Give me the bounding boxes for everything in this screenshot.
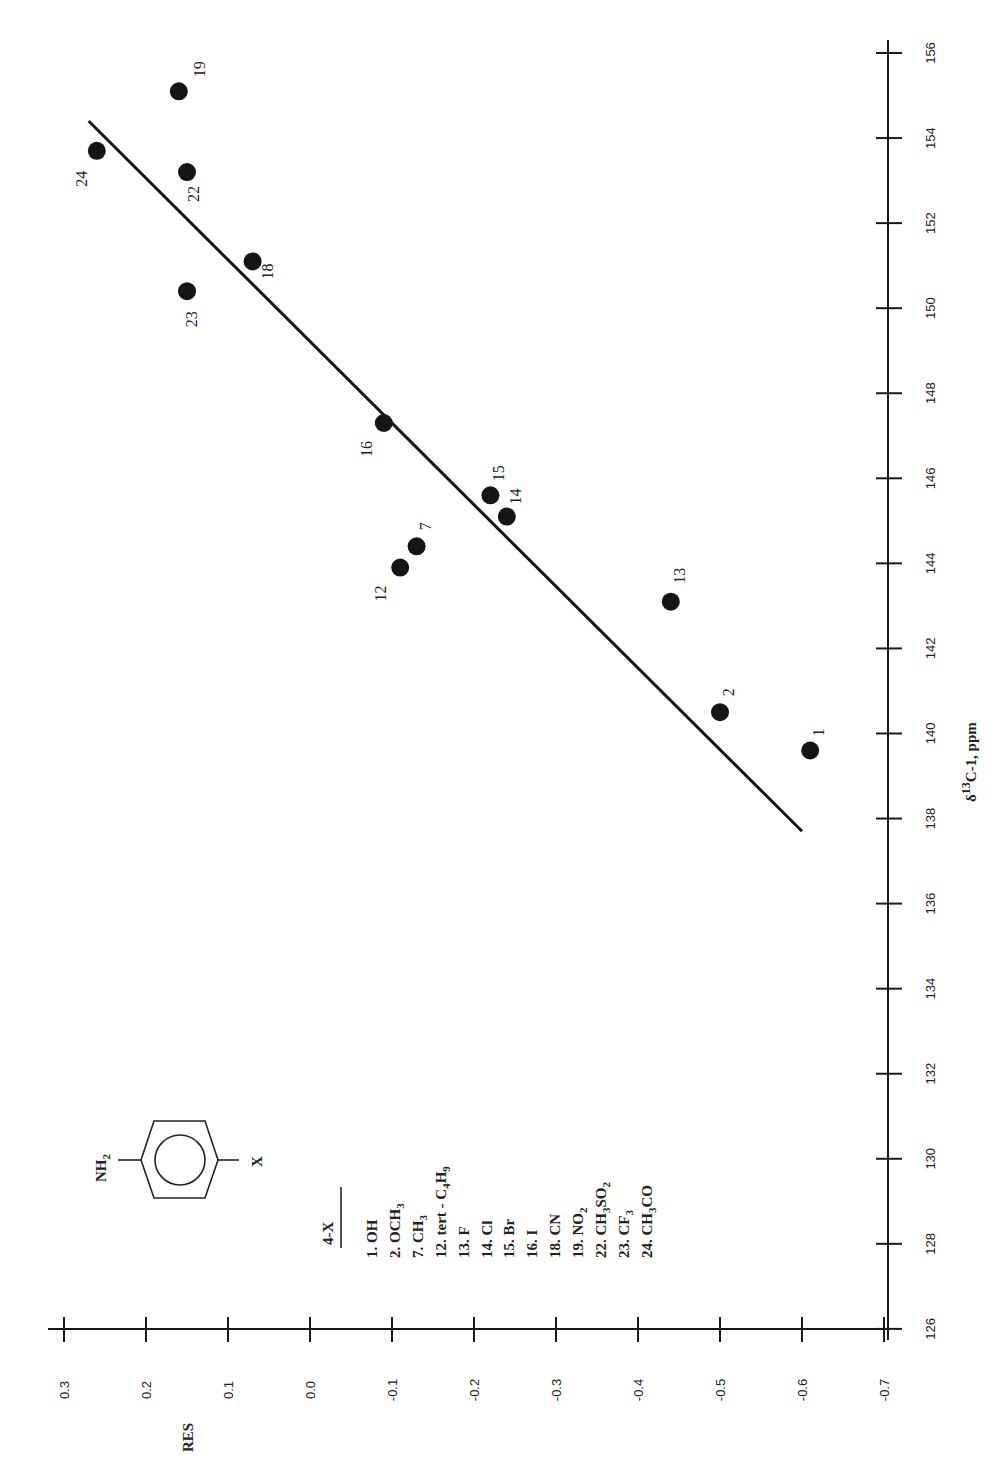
- res-tick-label: -0.1: [385, 1379, 400, 1401]
- data-point-label: 18: [259, 263, 276, 279]
- data-point-label: 15: [490, 465, 507, 481]
- delta-tick-label: 152: [923, 212, 938, 234]
- data-point: [178, 163, 196, 181]
- legend-entry: 13. F: [456, 1226, 472, 1258]
- data-point-label: 13: [671, 568, 688, 584]
- data-point: [481, 486, 499, 504]
- legend-entry: 1. OH: [364, 1219, 380, 1258]
- data-point-label: 16: [358, 441, 375, 457]
- res-tick-label: -0.7: [877, 1379, 892, 1401]
- legend-entry: 16. I: [524, 1230, 540, 1259]
- scatter-chart: 0.30.20.10.0-0.1-0.2-0.3-0.4-0.5-0.6-0.7…: [0, 0, 1003, 1476]
- delta-tick-label: 134: [923, 978, 938, 1000]
- legend-entry: 12. tert - C4H9: [433, 1166, 452, 1258]
- data-point: [801, 741, 819, 759]
- delta-tick-label: 150: [923, 297, 938, 319]
- res-tick-label: -0.6: [795, 1379, 810, 1401]
- legend-entry: 2. OCH3: [387, 1203, 406, 1258]
- data-point-label: 22: [185, 186, 202, 202]
- legend-entry: 18. CN: [547, 1214, 563, 1258]
- res-tick-label: -0.3: [549, 1379, 564, 1401]
- delta-tick-label: 130: [923, 1148, 938, 1170]
- legend-entry: 19. NO2: [570, 1207, 589, 1258]
- delta-axis: 1261281301321341361381401421441461481501…: [876, 40, 938, 1340]
- regression-line: [89, 121, 802, 831]
- legend: NH2 X 4-X1. OH2. OCH37. CH312. tert - C4…: [93, 1121, 658, 1258]
- delta-tick-label: 156: [923, 42, 938, 64]
- data-point-label: 12: [372, 586, 389, 602]
- legend-entry: 23. CF3: [616, 1210, 635, 1259]
- data-point: [170, 82, 188, 100]
- data-point-label: 1: [810, 728, 827, 736]
- data-point: [375, 414, 393, 432]
- delta-tick-label: 136: [923, 893, 938, 915]
- data-points: 12712131415161819222324: [73, 61, 827, 759]
- res-tick-label: -0.4: [631, 1379, 646, 1401]
- res-tick-label: -0.2: [467, 1379, 482, 1401]
- legend-entry: 15. Br: [501, 1218, 517, 1258]
- x-axis-title: δ13C-1, ppm: [959, 722, 979, 802]
- res-tick-label: 0.2: [139, 1381, 154, 1399]
- data-point-label: 14: [507, 489, 524, 505]
- res-tick-label: 0.1: [221, 1381, 236, 1399]
- res-tick-label: -0.5: [713, 1379, 728, 1401]
- data-point: [178, 282, 196, 300]
- data-point-label: 19: [191, 61, 208, 77]
- res-tick-label: 0.0: [303, 1381, 318, 1399]
- nh2-label: NH2: [93, 1154, 112, 1183]
- data-point-label: 7: [417, 522, 434, 530]
- legend-header: 4-X: [320, 1222, 336, 1245]
- data-point: [408, 537, 426, 555]
- res-axis: 0.30.20.10.0-0.1-0.2-0.3-0.4-0.5-0.6-0.7: [48, 1317, 892, 1401]
- data-point: [711, 703, 729, 721]
- delta-tick-label: 142: [923, 638, 938, 660]
- data-point: [662, 593, 680, 611]
- data-point-label: 23: [183, 311, 200, 327]
- y-axis-title: RES: [180, 1423, 196, 1452]
- res-tick-label: 0.3: [57, 1381, 72, 1399]
- legend-entry: 22. CH3SO2: [593, 1181, 612, 1258]
- delta-tick-label: 140: [923, 723, 938, 745]
- delta-tick-label: 144: [923, 553, 938, 575]
- data-point-label: 2: [720, 688, 737, 696]
- substituent-legend: 4-X1. OH2. OCH37. CH312. tert - C4H913. …: [320, 1166, 658, 1258]
- x-substituent-label: X: [249, 1156, 265, 1167]
- legend-entry: 24. CH3CO: [639, 1185, 658, 1258]
- legend-entry: 7. CH3: [410, 1215, 429, 1259]
- data-point-label: 24: [73, 171, 90, 187]
- delta-tick-label: 132: [923, 1063, 938, 1085]
- delta-tick-label: 146: [923, 467, 938, 489]
- delta-tick-label: 154: [923, 127, 938, 149]
- delta-tick-label: 128: [923, 1233, 938, 1255]
- delta-tick-label: 138: [923, 808, 938, 830]
- aniline-structure-icon: NH2 X: [93, 1121, 265, 1198]
- delta-tick-label: 148: [923, 382, 938, 404]
- data-point: [88, 142, 106, 160]
- data-point: [498, 508, 516, 526]
- legend-entry: 14. Cl: [479, 1221, 495, 1259]
- delta-tick-label: 126: [923, 1318, 938, 1340]
- data-point: [391, 559, 409, 577]
